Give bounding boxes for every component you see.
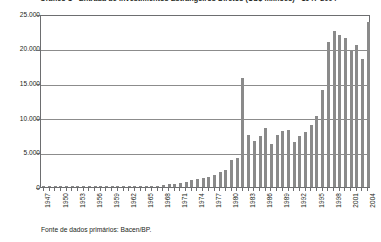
x-tick-mark: [88, 188, 89, 191]
bar: [241, 78, 244, 187]
bar: [321, 90, 324, 187]
bar: [122, 186, 125, 187]
x-tick-mark: [162, 188, 163, 191]
x-tick-mark: [100, 188, 101, 191]
x-tick-mark: [367, 188, 368, 191]
x-tick-mark: [310, 188, 311, 191]
bar: [327, 42, 330, 187]
bar: [298, 136, 301, 187]
x-tick-mark: [77, 188, 78, 191]
x-tick-mark: [54, 188, 55, 191]
x-tick-mark: [316, 188, 317, 191]
bar: [54, 186, 57, 187]
bar: [281, 131, 284, 187]
bar: [304, 132, 307, 187]
x-tick-label: 1965: [148, 193, 154, 208]
gridline: [41, 119, 369, 120]
bar: [315, 116, 318, 187]
x-tick-label: 1956: [97, 193, 103, 208]
source-note: Fonte de dados primários: Bacen/BP.: [41, 226, 151, 234]
x-tick-mark: [293, 188, 294, 191]
x-tick-mark: [134, 188, 135, 191]
x-tick-mark: [236, 188, 237, 191]
bar: [128, 186, 131, 187]
x-tick-mark: [327, 188, 328, 191]
bar: [338, 35, 341, 187]
bar: [82, 186, 85, 187]
bar: [65, 186, 68, 187]
bar: [111, 186, 114, 187]
gridline: [41, 50, 369, 51]
y-axis: 05.00010.00015.00020.00025.000: [0, 0, 40, 242]
x-tick-mark: [60, 188, 61, 191]
bar: [247, 135, 250, 187]
x-tick-mark: [111, 188, 112, 191]
bar: [276, 135, 279, 187]
bar: [287, 130, 290, 187]
x-tick-mark: [299, 188, 300, 191]
x-tick-label: 1992: [301, 193, 307, 208]
x-tick-label: 1971: [182, 193, 188, 208]
x-tick-mark: [259, 188, 260, 191]
bar: [42, 186, 45, 187]
x-tick-mark: [305, 188, 306, 191]
x-tick-mark: [174, 188, 175, 191]
bar: [179, 183, 182, 187]
x-tick-label: 2004: [370, 193, 376, 208]
x-tick-label: 2001: [353, 193, 359, 208]
bar: [253, 141, 256, 187]
x-tick-mark: [288, 188, 289, 191]
x-tick-mark: [185, 188, 186, 191]
bar: [156, 186, 159, 187]
bar: [48, 186, 51, 187]
bar: [293, 142, 296, 187]
x-tick-mark: [168, 188, 169, 191]
gridline: [41, 154, 369, 155]
x-tick-label: 1968: [165, 193, 171, 208]
bar: [270, 144, 273, 187]
bar: [71, 186, 74, 187]
x-tick-label: 1998: [336, 193, 342, 208]
x-tick-label: 1980: [233, 193, 239, 208]
bar: [116, 186, 119, 187]
x-tick-label: 1977: [216, 193, 222, 208]
x-tick-mark: [123, 188, 124, 191]
y-tick-label: 15.000: [6, 81, 40, 88]
x-tick-label: 1989: [284, 193, 290, 208]
x-tick-mark: [43, 188, 44, 191]
x-tick-mark: [151, 188, 152, 191]
x-tick-mark: [322, 188, 323, 191]
x-tick-mark: [49, 188, 50, 191]
x-tick-mark: [356, 188, 357, 191]
plot-area: [40, 15, 370, 188]
x-tick-label: 1995: [319, 193, 325, 208]
x-tick-label: 1947: [45, 193, 51, 208]
bar: [190, 180, 193, 187]
bar: [99, 186, 102, 187]
x-tick-mark: [179, 188, 180, 191]
x-tick-mark: [242, 188, 243, 191]
x-tick-mark: [94, 188, 95, 191]
bar: [259, 136, 262, 187]
x-tick-label: 1983: [250, 193, 256, 208]
x-tick-mark: [128, 188, 129, 191]
bar: [88, 186, 91, 187]
bar: [224, 170, 227, 187]
bar: [196, 179, 199, 187]
x-tick-mark: [71, 188, 72, 191]
bar: [162, 185, 165, 187]
x-tick-mark: [282, 188, 283, 191]
bar: [185, 182, 188, 187]
x-tick-mark: [339, 188, 340, 191]
y-tick-label: 20.000: [6, 46, 40, 53]
bar: [361, 59, 364, 187]
x-tick-mark: [157, 188, 158, 191]
x-tick-mark: [105, 188, 106, 191]
bar: [173, 184, 176, 187]
bar: [264, 128, 267, 187]
x-tick-mark: [361, 188, 362, 191]
x-tick-label: 1986: [267, 193, 273, 208]
x-tick-label: 1953: [80, 193, 86, 208]
x-tick-mark: [253, 188, 254, 191]
y-tick-label: 10.000: [6, 116, 40, 123]
